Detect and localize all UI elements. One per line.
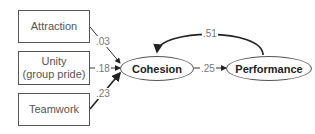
coef-attraction: .03 xyxy=(95,36,111,47)
cohesion-label: Cohesion xyxy=(132,63,182,75)
coef-teamwork: .23 xyxy=(95,88,111,99)
performance-label: Performance xyxy=(235,63,302,75)
unity-sublabel: (group pride) xyxy=(23,68,86,81)
teamwork-label: Teamwork xyxy=(29,103,79,116)
coef-performance-cohesion: .51 xyxy=(202,28,218,39)
coef-cohesion-performance: .25 xyxy=(200,63,216,74)
coef-unity: .18 xyxy=(95,63,111,74)
performance-node: Performance xyxy=(226,56,312,81)
unity-label: Unity xyxy=(41,55,66,68)
attraction-box: Attraction xyxy=(18,10,90,43)
cohesion-node: Cohesion xyxy=(120,56,194,81)
teamwork-box: Teamwork xyxy=(18,93,90,126)
attraction-label: Attraction xyxy=(31,20,77,33)
unity-box: Unity (group pride) xyxy=(18,51,90,85)
